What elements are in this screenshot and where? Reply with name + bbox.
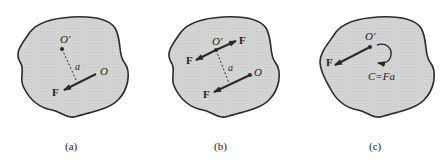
label-force-upper-left-b: F (186, 54, 193, 66)
label-o-prime-b: O′ (212, 35, 223, 47)
label-o-prime-a: O′ (60, 33, 71, 45)
caption-c: (c) (369, 140, 382, 153)
panel-c: O′ F C=Fa (c) (320, 17, 434, 153)
label-o-a: O (100, 65, 108, 77)
label-distance-a: a (75, 61, 80, 72)
panel-b: O′ O a F F F (b) (169, 17, 279, 153)
label-force-a: F (52, 86, 59, 98)
caption-a: (a) (65, 140, 78, 153)
rigid-body-a (18, 17, 128, 117)
label-force-upper-right-b: F (239, 34, 246, 46)
panel-a: O′ O a F (a) (18, 17, 128, 153)
label-distance-b: a (228, 62, 233, 73)
label-force-lower-b: F (203, 88, 210, 100)
rigid-body-b (169, 17, 279, 117)
force-translation-diagram: O′ O a F (a) O′ O a F F F (b) O′ F C=Fa … (0, 0, 445, 166)
label-o-b: O (254, 66, 262, 78)
point-o-prime-a (60, 47, 64, 51)
rigid-body-c (320, 17, 434, 117)
label-force-c: F (326, 56, 333, 68)
caption-b: (b) (214, 140, 227, 153)
label-o-prime-c: O′ (365, 30, 376, 42)
label-couple-c: C=Fa (368, 70, 395, 82)
